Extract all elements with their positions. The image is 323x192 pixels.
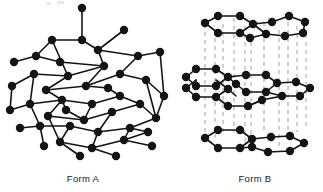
allotrope-structure-figure: Form A Form B [0, 0, 323, 192]
structure-svg: Form A Form B [0, 0, 323, 192]
form-b-label: Form B [239, 173, 272, 184]
form-a-label: Form A [67, 173, 100, 184]
